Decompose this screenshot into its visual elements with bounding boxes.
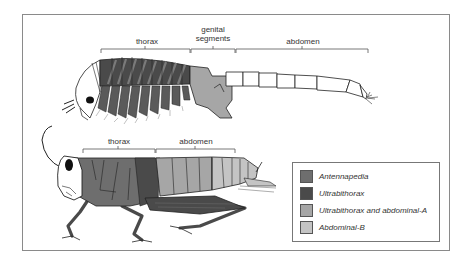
legend-item-abdominal-b: Abdominal-B (300, 219, 439, 236)
legend-label: Ultrabithorax (319, 189, 364, 198)
label-bottom-abdomen: abdomen (178, 138, 214, 146)
label-top-genital-line1: genital (193, 26, 233, 34)
swatch-ultrabithorax (300, 187, 313, 200)
legend-label: Ultrabithorax and abdominal-A (319, 206, 427, 215)
shrimp-body (62, 57, 378, 124)
grasshopper-body (42, 126, 276, 242)
top-brackets (101, 46, 368, 53)
label-top-thorax: thorax (132, 38, 162, 46)
swatch-antennapedia (300, 170, 313, 183)
legend-item-ubx-abda: Ultrabithorax and abdominal-A (300, 202, 439, 219)
legend-item-antennapedia: Antennapedia (300, 168, 439, 185)
legend-label: Antennapedia (319, 172, 368, 181)
legend: Antennapedia Ultrabithorax Ultrabithorax… (292, 162, 440, 242)
bottom-brackets (83, 146, 235, 153)
label-top-abdomen: abdomen (285, 38, 321, 46)
legend-item-ultrabithorax: Ultrabithorax (300, 185, 439, 202)
label-top-genital-line2: segments (193, 35, 233, 43)
swatch-abdominal-b (300, 221, 313, 234)
swatch-ubx-abda (300, 204, 313, 217)
label-bottom-thorax: thorax (104, 138, 134, 146)
legend-label: Abdominal-B (319, 223, 365, 232)
